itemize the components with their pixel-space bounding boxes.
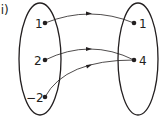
- codomain-point-1: [132, 21, 137, 26]
- codomain-label-1: 1: [139, 18, 147, 30]
- mapping-diagram: [0, 0, 161, 117]
- domain-point-2: [43, 58, 48, 63]
- domain-label-neg2: −2: [26, 92, 44, 104]
- codomain-label-4: 4: [139, 55, 147, 67]
- arrowhead-3: [86, 65, 92, 69]
- arrow-1-to-1: [45, 14, 134, 23]
- codomain-point-4: [132, 58, 137, 63]
- codomain-ellipse: [118, 3, 158, 115]
- domain-label-2: 2: [34, 55, 42, 67]
- diagram-label: (i): [0, 4, 9, 16]
- arrowhead-1: [86, 12, 92, 16]
- domain-label-1: 1: [35, 18, 43, 30]
- arrowhead-2: [86, 47, 92, 51]
- arrow-2-to-4: [45, 49, 134, 60]
- domain-point-1: [43, 21, 48, 26]
